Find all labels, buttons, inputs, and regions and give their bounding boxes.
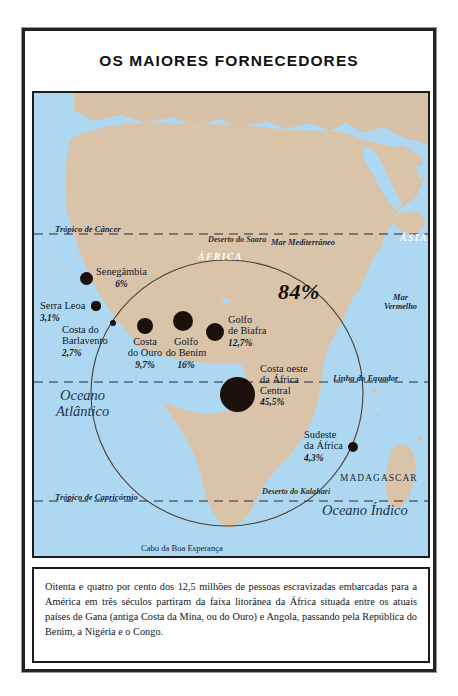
latitude-label-cancer: Trópico de Câncer bbox=[55, 224, 121, 234]
caption-text: Oitenta e quatro por cento dos 12,5 milh… bbox=[45, 579, 417, 640]
desert-label-kalahari: Deserto do Kalahari bbox=[262, 487, 330, 496]
region-label-golfo-do-benim: Golfo do Benim 16% bbox=[155, 337, 217, 370]
region-label-costa-oeste-africa-central: Costa oeste da África Central 45,5% bbox=[260, 364, 308, 407]
region-name: Serra Leoa bbox=[40, 301, 85, 312]
region-dot-senegambia[interactable] bbox=[80, 272, 93, 285]
region-percent: 4,3% bbox=[304, 453, 343, 463]
cape-label-boa-esperanca: Cabo da Boa Esperança bbox=[141, 543, 223, 553]
sea-label-vermelho: Mar Vermelho bbox=[384, 293, 417, 311]
region-label-senegambia: Senegâmbia 6% bbox=[96, 267, 147, 289]
title-bar: OS MAIORES FORNECEDORES bbox=[25, 31, 433, 91]
infographic-panel: OS MAIORES FORNECEDORES bbox=[22, 28, 436, 672]
ocean-label-atlantico-line2: Atlântico bbox=[56, 403, 109, 419]
region-percent: 45,5% bbox=[260, 397, 308, 407]
ocean-label-indico: Oceano Índico bbox=[322, 502, 408, 518]
page-title: OS MAIORES FORNECEDORES bbox=[99, 52, 359, 70]
sea-label-vermelho-line1: Mar bbox=[384, 293, 417, 302]
page-root: OS MAIORES FORNECEDORES bbox=[0, 0, 458, 696]
region-name-line2: do Benim bbox=[155, 348, 217, 359]
region-name-line2: Barlavento bbox=[62, 336, 108, 347]
continent-label-asia: ÁSIA bbox=[400, 233, 428, 243]
region-percent: 6% bbox=[96, 279, 147, 289]
region-label-golfo-de-biafra: Golfo de Biafra 12,7% bbox=[228, 315, 266, 348]
region-name-line3: Central bbox=[260, 386, 308, 397]
country-label-madagascar: MADAGASCAR bbox=[340, 473, 418, 483]
map-canvas: ÁFRICA ÁSIA Mar Mediterrâneo Mar Vermelh… bbox=[32, 91, 430, 558]
region-dot-serra-leoa[interactable] bbox=[91, 301, 100, 310]
desert-label-saara: Deserto do Saara bbox=[208, 235, 266, 244]
region-label-sudeste-da-africa: Sudeste da África 4,3% bbox=[304, 430, 343, 463]
ocean-label-atlantico: Oceano Atlântico bbox=[56, 387, 109, 419]
caption-box: Oitenta e quatro por cento dos 12,5 milh… bbox=[32, 567, 430, 663]
region-name: Senegâmbia bbox=[96, 267, 147, 278]
sea-label-vermelho-line2: Vermelho bbox=[384, 302, 417, 311]
region-name-line2: de Biafra bbox=[228, 326, 266, 337]
sea-label-mediterraneo: Mar Mediterrâneo bbox=[271, 238, 335, 247]
region-name-line2: da África bbox=[260, 375, 308, 386]
region-percent: 16% bbox=[155, 360, 217, 370]
region-percent: 12,7% bbox=[228, 338, 266, 348]
region-percent: 3,1% bbox=[40, 313, 85, 323]
region-percent: 2,7% bbox=[62, 348, 108, 358]
continent-label-africa: ÁFRICA bbox=[198, 252, 243, 262]
ocean-label-atlantico-line1: Oceano bbox=[56, 387, 109, 403]
highlight-percent-label: 84% bbox=[278, 279, 320, 305]
region-dot-costa-oeste-africa-central[interactable] bbox=[220, 377, 255, 412]
region-label-costa-do-barlavento: Costa do Barlavento 2,7% bbox=[62, 325, 108, 358]
region-name-line2: da África bbox=[304, 441, 343, 452]
latitude-label-equador: Linha do Equador bbox=[333, 373, 398, 383]
latitude-label-capricornio: Trópico de Capricórnio bbox=[55, 492, 138, 502]
region-label-serra-leoa: Serra Leoa 3,1% bbox=[40, 301, 85, 323]
